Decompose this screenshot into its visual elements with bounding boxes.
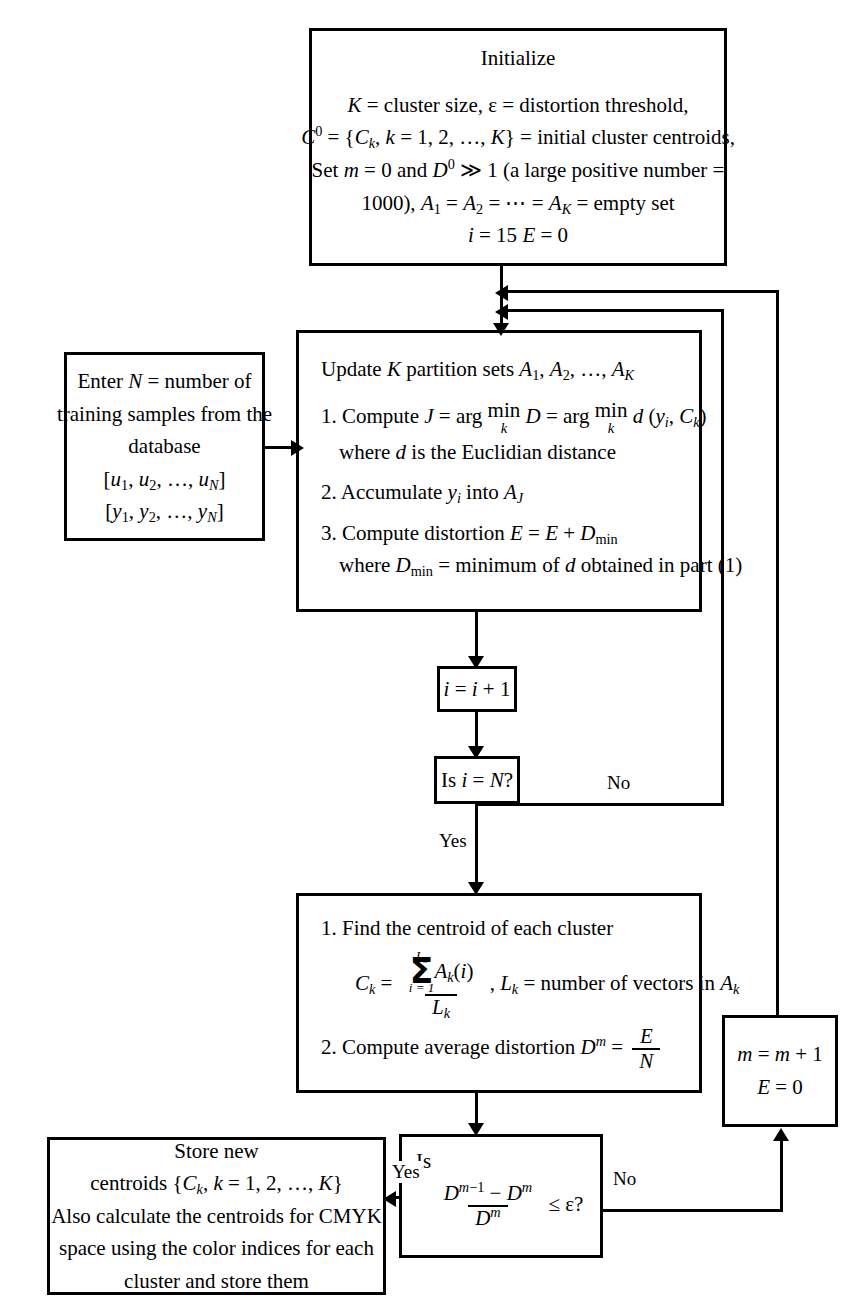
flowchart-canvas: Yes No Yes No Initialize K = cluster siz… <box>0 0 866 1316</box>
store-line-1: Store new <box>174 1135 259 1168</box>
enter-n-line-1: Enter N = number of <box>78 365 252 398</box>
connector-converged-no-vertical <box>780 1140 783 1211</box>
connector-increment-m-return-horizontal <box>501 290 779 293</box>
increment-m-line-2: E = 0 <box>757 1071 803 1104</box>
arrowhead-into-convergence <box>468 1123 484 1136</box>
update-step-1: 1. Compute J = arg mink D = arg mink d (… <box>321 400 707 436</box>
edge-label-no-i-loop: No <box>605 772 632 794</box>
is-i-equals-n-text: Is i = N? <box>441 764 513 797</box>
connector-increment-m-return-vertical <box>776 290 779 1017</box>
enter-n-line-2: training samples from the <box>57 398 272 431</box>
update-step-3-note: where Dmin = minimum of d obtained in pa… <box>321 549 742 582</box>
node-is-i-equals-n[interactable]: Is i = N? <box>434 756 520 804</box>
arrowhead-into-increment-m <box>773 1128 789 1141</box>
node-increment-i[interactable]: i = i + 1 <box>437 666 517 712</box>
connector-yes-to-centroid <box>475 800 478 891</box>
centroid-step-2: 2. Compute average distortion Dm = EN <box>321 1025 664 1074</box>
update-heading: Update K partition sets A1, A2, …, AK <box>321 353 634 386</box>
update-step-1-note: where d is the Euclidian distance <box>321 436 616 469</box>
store-line-3: Also calculate the centroids for CMYK <box>51 1200 382 1233</box>
store-line-5: cluster and store them <box>124 1265 309 1298</box>
arrowhead-into-increment-i <box>468 656 484 669</box>
arrowhead-return-increment-m <box>495 285 508 301</box>
centroid-step-1: 1. Find the centroid of each cluster <box>321 912 613 945</box>
edge-label-yes-i-loop: Yes <box>437 830 469 852</box>
node-increment-m[interactable]: m = m + 1 E = 0 <box>722 1015 838 1127</box>
connector-no-loop-return-horizontal <box>501 309 724 312</box>
enter-n-line-4: [u1, u2, …, uN] <box>104 463 226 496</box>
store-line-2: centroids {Ck, k = 1, 2, …, K} <box>90 1167 342 1200</box>
node-convergence-test[interactable]: Is Dm−1 − Dm Dm ≤ ε? <box>399 1134 603 1258</box>
node-update-partitions[interactable]: Update K partition sets A1, A2, …, AK 1.… <box>296 330 702 612</box>
initialize-heading: Initialize <box>481 42 556 75</box>
initialize-line-3: Set m = 0 and D0 ≫ 1 (a large positive n… <box>312 154 725 187</box>
node-store-centroids[interactable]: Store new centroids {Ck, k = 1, 2, …, K}… <box>47 1137 386 1295</box>
enter-n-line-5: [y1, y2, …, yN] <box>105 495 223 528</box>
edge-label-no-converged: No <box>611 1168 638 1190</box>
arrowhead-return-no-loop <box>495 304 508 320</box>
arrowhead-into-centroid <box>468 882 484 895</box>
update-step-3: 3. Compute distortion E = E + Dmin <box>321 517 618 550</box>
initialize-line-2: C0 = {Ck, k = 1, 2, …, K} = initial clus… <box>301 121 735 154</box>
increment-i-text: i = i + 1 <box>444 673 511 706</box>
node-enter-n[interactable]: Enter N = number of training samples fro… <box>64 352 265 541</box>
store-line-4: space using the color indices for each <box>59 1232 374 1265</box>
node-initialize[interactable]: Initialize K = cluster size, ε = distort… <box>309 28 727 266</box>
node-find-centroid[interactable]: 1. Find the centroid of each cluster Ck … <box>296 893 702 1093</box>
arrowhead-into-is-i-test <box>468 746 484 759</box>
initialize-line-4: 1000), A1 = A2 = ⋯ = AK = empty set <box>361 187 674 220</box>
centroid-formula: Ck = LkΣi = 1Ak(i) Lk , Lk = number of v… <box>321 950 739 1020</box>
increment-m-line-1: m = m + 1 <box>737 1038 823 1071</box>
convergence-formula: Dm−1 − Dm Dm ≤ ε? <box>433 1182 584 1231</box>
arrowhead-into-update-left <box>291 440 304 456</box>
edge-label-yes-converged: Yes <box>390 1161 422 1183</box>
update-step-2: 2. Accumulate yi into AJ <box>321 476 523 509</box>
arrowhead-into-update <box>493 323 509 336</box>
connector-converged-no-horizontal <box>603 1209 783 1212</box>
enter-n-line-3: database <box>128 430 200 463</box>
arrowhead-into-store <box>383 1191 396 1207</box>
initialize-line-1: K = cluster size, ε = distortion thresho… <box>347 89 688 122</box>
initialize-line-5: i = 15 E = 0 <box>468 219 568 252</box>
